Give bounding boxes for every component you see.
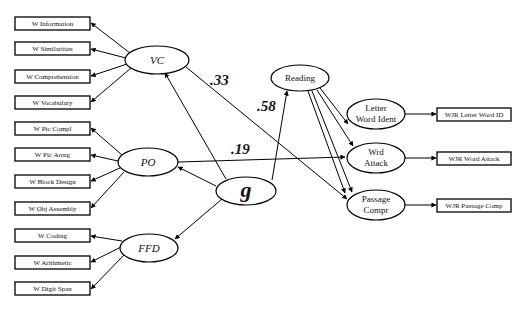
indicator-w-pic-arrng: W Pic Arrng <box>15 148 90 161</box>
latent-po: PO <box>118 148 178 176</box>
latent-passage-compr: Passage Compr <box>347 190 405 220</box>
indicator-w-pic-compl: W Pic Compl <box>15 122 90 135</box>
paths-reading <box>308 88 353 193</box>
svg-text:Word Ident: Word Ident <box>356 114 397 124</box>
svg-text:W Comprehension: W Comprehension <box>26 73 79 81</box>
sem-diagram: W Information W Similarities W Comprehen… <box>0 0 527 313</box>
paths-wjr <box>404 114 436 205</box>
latent-g: g <box>216 177 276 205</box>
svg-text:PO: PO <box>140 156 156 168</box>
svg-text:Compr: Compr <box>363 205 388 215</box>
latent-reading: Reading <box>271 65 329 91</box>
indicator-w-block-design: W Block Design <box>15 175 90 188</box>
coef-vc-passage: .33 <box>210 72 229 88</box>
svg-text:Passage: Passage <box>362 194 391 204</box>
latent-letter-word-ident: Letter Word Ident <box>347 99 405 129</box>
svg-text:Attack: Attack <box>364 158 388 168</box>
indicator-wjr-word-attack: WJR Word Attack <box>437 152 511 165</box>
svg-text:W Vocabulary: W Vocabulary <box>33 99 73 107</box>
indicator-w-comprehension: W Comprehension <box>15 70 90 83</box>
indicator-wjr-letter-word-id: WJR Letter Word ID <box>437 108 511 121</box>
indicator-w-digit-span: W Digit Span <box>15 282 90 295</box>
svg-text:WJR Passage Comp: WJR Passage Comp <box>446 202 503 210</box>
indicator-w-information: W Information <box>15 17 90 30</box>
indicator-w-arithmetic: W Arithmetic <box>15 256 90 269</box>
indicator-w-similarities: W Similarities <box>15 42 90 55</box>
latent-vc: VC <box>125 46 189 74</box>
svg-text:W Coding: W Coding <box>38 232 67 240</box>
paths-po <box>91 128 124 208</box>
coef-po-wordattack: .19 <box>231 141 250 157</box>
indicator-w-obj-assembly: W Obj Assembly <box>15 202 90 215</box>
svg-text:g: g <box>240 177 252 202</box>
svg-text:W Information: W Information <box>32 20 74 28</box>
coef-g-reading: .58 <box>257 98 276 114</box>
svg-text:FFD: FFD <box>137 242 159 254</box>
latent-ffd: FFD <box>120 234 178 262</box>
svg-text:WJR Word Attack: WJR Word Attack <box>448 155 500 163</box>
indicator-w-vocabulary: W Vocabulary <box>15 96 90 109</box>
svg-text:W Block Design: W Block Design <box>29 178 76 186</box>
latent-word-attack: Wrd Attack <box>347 143 405 173</box>
svg-text:Reading: Reading <box>285 73 315 83</box>
svg-text:W Obj Assembly: W Obj Assembly <box>28 205 77 213</box>
svg-text:W Pic Compl: W Pic Compl <box>34 125 72 133</box>
svg-text:W Pic Arrng: W Pic Arrng <box>35 151 71 159</box>
paths-ffd <box>91 236 125 289</box>
svg-text:Wrd: Wrd <box>368 147 384 157</box>
svg-text:Letter: Letter <box>365 103 387 113</box>
svg-text:WJR Letter Word ID: WJR Letter Word ID <box>445 111 504 119</box>
svg-text:W Similarities: W Similarities <box>32 45 73 53</box>
svg-text:W Arithmetic: W Arithmetic <box>33 259 71 267</box>
indicator-w-coding: W Coding <box>15 229 90 242</box>
svg-text:W Digit Span: W Digit Span <box>33 285 72 293</box>
indicator-wjr-passage-comp: WJR Passage Comp <box>437 199 511 212</box>
svg-text:VC: VC <box>150 54 165 66</box>
